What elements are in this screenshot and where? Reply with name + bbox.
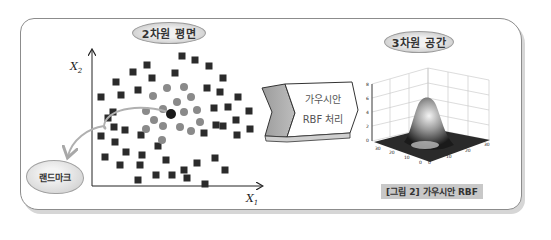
circle-point	[187, 93, 195, 101]
square-point	[225, 104, 232, 111]
square-point	[130, 69, 137, 76]
z-tick: 6	[366, 96, 369, 101]
square-point	[135, 87, 142, 94]
square-point	[118, 92, 125, 99]
square-point	[246, 108, 253, 115]
landmark-arrow	[68, 108, 168, 156]
right-panel-title: 3차원 공간	[384, 31, 454, 53]
z-tick: 8	[366, 82, 369, 87]
figure-caption: [그림 2] 가우시안 RBF	[381, 184, 483, 199]
square-point	[234, 132, 241, 139]
x-axis-label-text: X	[246, 192, 254, 205]
circle-point	[196, 118, 204, 126]
x-tick: 0	[419, 160, 422, 165]
square-point	[138, 132, 145, 139]
square-point	[212, 155, 219, 162]
z-tick: 4	[366, 110, 369, 115]
square-point	[113, 79, 120, 86]
process-line-1: 가우시안	[288, 90, 358, 110]
x-tick: 10	[404, 155, 410, 160]
x-tick: 30	[375, 146, 381, 151]
square-point	[211, 105, 218, 112]
square-point	[172, 70, 179, 77]
square-point	[144, 62, 151, 69]
square-point	[235, 94, 242, 101]
square-point	[98, 94, 105, 101]
x-tick: 20	[389, 150, 395, 155]
x-axis-subscript: 1	[254, 199, 258, 207]
square-point	[194, 160, 201, 167]
square-point	[137, 162, 144, 169]
circle-point	[180, 108, 188, 116]
landmark-label: 랜드마크	[26, 160, 84, 194]
square-point	[206, 63, 213, 70]
y-axis-subscript: 2	[78, 67, 82, 75]
square-point	[201, 130, 208, 137]
square-point	[102, 154, 109, 161]
square-point	[179, 53, 186, 60]
y-axis-label-text: X	[70, 60, 78, 73]
square-point	[222, 167, 229, 174]
square-point	[98, 133, 105, 140]
z-tick: 0	[366, 138, 369, 143]
square-points	[98, 53, 254, 188]
circle-point	[173, 98, 181, 106]
square-point	[220, 75, 227, 82]
square-point	[149, 75, 156, 82]
square-point	[204, 85, 211, 92]
square-point	[181, 167, 188, 174]
square-point	[192, 57, 199, 64]
y-tick: 10	[446, 154, 452, 159]
square-point	[135, 177, 142, 184]
landmark-point	[166, 109, 176, 119]
square-point	[153, 172, 160, 179]
square-point	[184, 175, 191, 182]
circle-point	[193, 106, 201, 114]
y-tick: 30	[484, 142, 490, 147]
square-point	[123, 149, 130, 156]
z-tick: 2	[366, 124, 369, 129]
y-tick: 20	[465, 148, 471, 153]
circle-point	[159, 122, 167, 130]
circle-point	[142, 125, 150, 133]
square-point	[139, 152, 146, 159]
circle-point	[149, 92, 157, 100]
square-point	[163, 157, 170, 164]
square-point	[202, 181, 209, 188]
circle-point	[187, 127, 195, 135]
y-axis-label: X2	[70, 60, 82, 75]
square-point	[217, 89, 224, 96]
square-point	[169, 172, 176, 179]
square-point	[112, 139, 119, 146]
left-panel-title: 2차원 평면	[132, 22, 206, 44]
circle-point	[150, 116, 158, 124]
square-point	[213, 122, 220, 129]
square-point	[247, 126, 254, 133]
y-tick: 0	[428, 160, 431, 165]
circle-point	[176, 123, 184, 131]
square-point	[111, 124, 118, 131]
circle-point	[163, 84, 171, 92]
square-point	[233, 117, 240, 124]
square-point	[122, 127, 129, 134]
circle-point	[158, 136, 166, 144]
process-line-2: RBF 처리	[288, 110, 358, 130]
x-axis-label: X1	[246, 192, 258, 207]
square-point	[117, 162, 124, 169]
square-point	[220, 123, 227, 130]
circle-point	[180, 83, 188, 91]
